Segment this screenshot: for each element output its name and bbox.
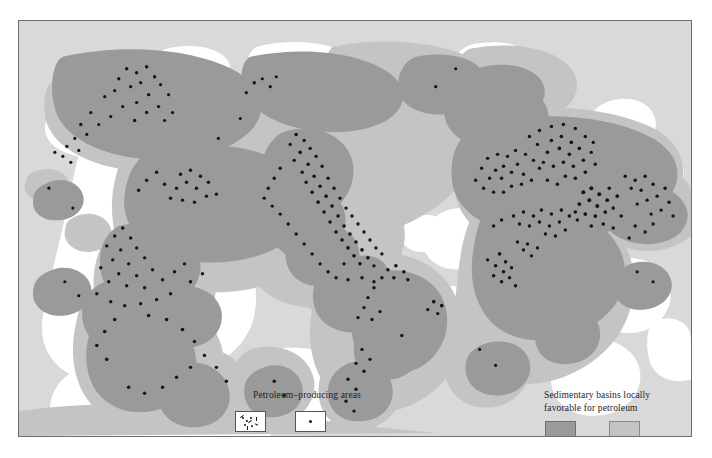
legend-basins-title-line1: Sedimentary basins locally bbox=[544, 389, 692, 402]
legend-petroleum-title: Petroleum–producing areas bbox=[220, 389, 394, 402]
legend-entry-offshore-basin: Offshore bbox=[607, 421, 641, 437]
legend-entry-offshore-wells: Offshore bbox=[293, 411, 327, 438]
offshore-symbol-box bbox=[295, 411, 326, 432]
world-map-canvas bbox=[19, 21, 691, 436]
onshore-basin-swatch bbox=[545, 421, 576, 437]
legend-basins-title-line2: favorable for petroleum bbox=[544, 402, 692, 415]
figure-root: Petroleum–producing areas bbox=[0, 0, 712, 458]
legend-entry-onshore-basin: Onshore bbox=[544, 421, 577, 437]
offshore-basin-swatch bbox=[609, 421, 640, 437]
legend-petroleum-producing-areas: Petroleum–producing areas bbox=[234, 389, 394, 437]
legend-sedimentary-basins: Sedimentary basins locally favorable for… bbox=[544, 389, 692, 437]
legend-offshore-wells-label: Offshore bbox=[293, 437, 327, 438]
map-frame: Petroleum–producing areas bbox=[18, 20, 692, 437]
legend-onshore-wells-label: Onshore bbox=[234, 437, 267, 438]
legend-petroleum-entries: Onshore Offshore bbox=[234, 411, 394, 438]
onshore-symbol-box bbox=[235, 411, 266, 432]
legend-entry-onshore-wells: Onshore bbox=[234, 411, 267, 438]
legend-basins-entries: Onshore Offshore bbox=[544, 421, 692, 437]
